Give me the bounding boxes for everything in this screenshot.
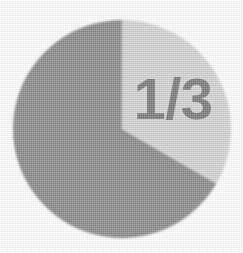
pie-chart: 1/3 bbox=[0, 0, 243, 253]
pie-chart-figure: 1/3 bbox=[0, 0, 243, 253]
pie-slice-label-one-third: 1/3 bbox=[133, 66, 212, 131]
